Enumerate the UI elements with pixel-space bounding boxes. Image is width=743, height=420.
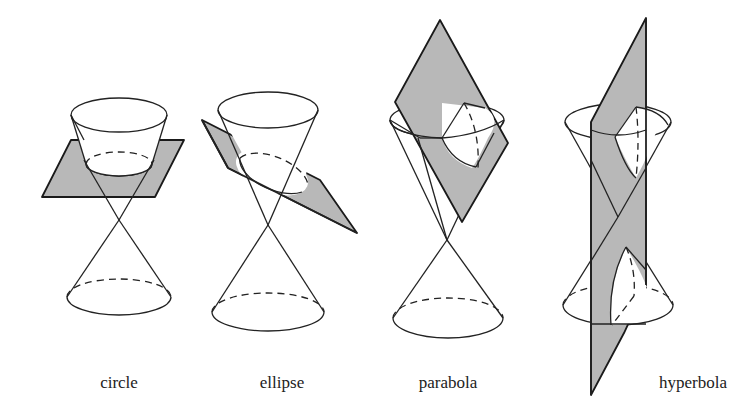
ellipse-lower-cone [212, 225, 324, 331]
hyperbola-cutting-plane [591, 18, 646, 395]
label-ellipse: ellipse [260, 373, 304, 392]
label-circle: circle [100, 373, 138, 392]
parabola-lower-cone [393, 240, 503, 338]
panel-ellipse: ellipse [202, 92, 357, 392]
label-hyperbola: hyperbola [659, 373, 727, 392]
label-parabola: parabola [419, 373, 478, 392]
circle-lower-cone [67, 220, 171, 315]
panel-hyperbola: hyperbola [563, 18, 727, 395]
circle-upper-cone [71, 98, 167, 220]
panel-parabola: parabola [390, 20, 508, 392]
conic-sections-diagram: circle ellipse [0, 0, 743, 420]
panel-circle: circle [42, 98, 184, 392]
